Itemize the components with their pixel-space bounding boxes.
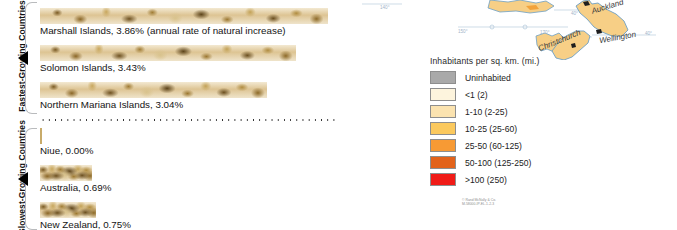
fastest-growing-group: Fastest-Growing Countries (0, 2, 40, 114)
map-landmass-australia (488, 0, 554, 13)
legend-item: 25-50 (60-125) (430, 137, 580, 154)
map-graphic (340, 0, 677, 60)
legend-swatch (430, 71, 456, 84)
legend-item: 10-25 (25-60) (430, 120, 580, 137)
bar-fill (40, 165, 92, 181)
legend-item: 1-10 (2-25) (430, 103, 580, 120)
legend-item-label: Uninhabited (465, 73, 511, 83)
slowest-group-arrow-icon (18, 172, 28, 186)
bar-label: Australia, 0.69% (40, 182, 111, 194)
group-divider (40, 119, 336, 121)
bar-fill (40, 82, 267, 98)
map-grid-label: 150° (458, 29, 468, 34)
bar-label: Marshall Islands, 3.86% (annual rate of … (40, 25, 328, 37)
bar-row: Solomon Islands, 3.43% (40, 45, 296, 74)
fastest-group-arrow-icon (18, 51, 28, 65)
population-density-legend: Inhabitants per sq. km. (mi.) Uninhabite… (430, 56, 580, 207)
bar-row: Niue, 0.00% (40, 128, 93, 157)
bar-fill (40, 128, 42, 144)
bar-label: Northern Mariana Islands, 3.04% (40, 99, 267, 111)
slowest-growing-group: Slowest-Growing Countries (0, 128, 40, 230)
legend-item: 50-100 (125-250) (430, 154, 580, 171)
legend-swatch (430, 105, 456, 118)
map-credit-line: M-58000-IP-EL-1-2-3 (462, 202, 580, 206)
legend-item-label: >100 (250) (465, 175, 507, 185)
legend-swatch (430, 173, 456, 186)
growth-chart-panel: Fastest-Growing Countries Slowest-Growin… (0, 0, 345, 230)
legend-item: Uninhabited (430, 69, 580, 86)
map-grid-label: 40° (571, 11, 578, 16)
map-grid-label: 140° (380, 5, 390, 10)
bar-fill (40, 45, 296, 61)
map-grid-label: 40° (645, 31, 652, 36)
legend-item: <1 (2) (430, 86, 580, 103)
legend-swatch (430, 122, 456, 135)
legend-title: Inhabitants per sq. km. (mi.) (430, 56, 580, 66)
map-grid-label: 170° (540, 30, 550, 35)
map-city-marker-wellington (596, 29, 602, 34)
legend-swatch (430, 156, 456, 169)
bar-label: New Zealand, 0.75% (40, 219, 131, 230)
bar-row: Northern Mariana Islands, 3.04% (40, 82, 267, 111)
legend-item-label: <1 (2) (465, 90, 488, 100)
legend-item-label: 1-10 (2-25) (465, 107, 508, 117)
map-credit: © Rand McNally & Co. M-58000-IP-EL-1-2-3 (462, 198, 580, 207)
bar-row: New Zealand, 0.75% (40, 202, 131, 230)
bar-row: Marshall Islands, 3.86% (annual rate of … (40, 8, 328, 37)
legend-item-label: 10-25 (25-60) (465, 124, 517, 134)
legend-item-label: 50-100 (125-250) (465, 158, 531, 168)
map-fragment: Auckland Wellington Christchurch 140° 40… (340, 0, 677, 60)
bar-label: Niue, 0.00% (40, 145, 93, 157)
bar-label: Solomon Islands, 3.43% (40, 62, 296, 74)
bar-fill (40, 202, 96, 218)
bar-row: Australia, 0.69% (40, 165, 111, 194)
legend-swatch (430, 88, 456, 101)
legend-item: >100 (250) (430, 171, 580, 188)
bar-fill (40, 8, 328, 24)
legend-item-label: 25-50 (60-125) (465, 141, 522, 151)
legend-swatch (430, 139, 456, 152)
